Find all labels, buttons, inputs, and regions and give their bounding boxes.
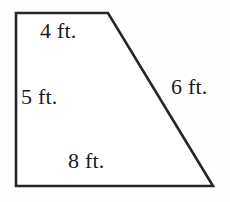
side-label-right: 6 ft. [171, 76, 207, 98]
side-label-bottom: 8 ft. [68, 150, 104, 172]
side-label-left: 5 ft. [21, 86, 57, 108]
side-label-top: 4 ft. [40, 20, 76, 42]
figure-canvas: 4 ft. 5 ft. 6 ft. 8 ft. [0, 0, 230, 202]
